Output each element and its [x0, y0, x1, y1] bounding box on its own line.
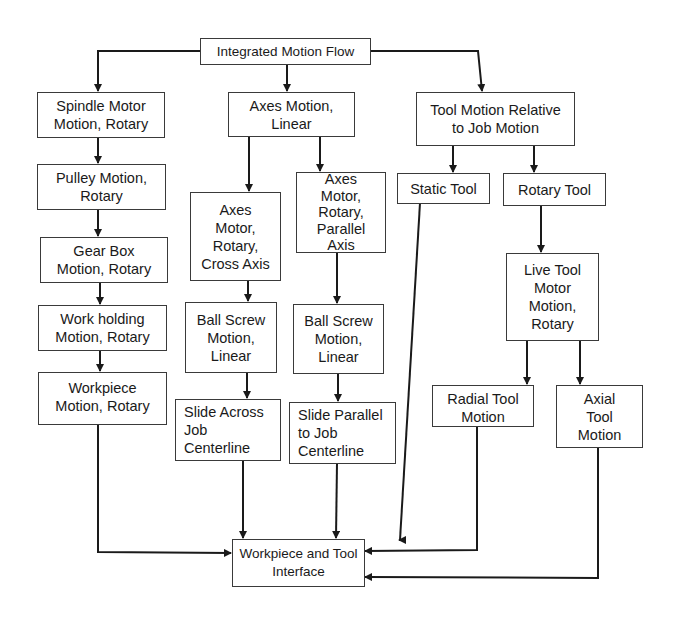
- node-axial-tool-motion: Axial Tool Motion: [556, 385, 643, 448]
- node-work-holding: Work holding Motion, Rotary: [38, 305, 167, 351]
- node-static-tool: Static Tool: [397, 173, 490, 204]
- node-ball-screw-parallel: Ball Screw Motion, Linear: [293, 304, 384, 374]
- node-slide-parallel: Slide Parallel to Job Centerline: [289, 402, 396, 464]
- node-pulley-motion: Pulley Motion, Rotary: [37, 164, 166, 210]
- node-tool-motion-relative: Tool Motion Relative to Job Motion: [416, 92, 575, 146]
- node-live-tool-motor: Live Tool Motor Motion, Rotary: [506, 253, 599, 341]
- node-gear-box: Gear Box Motion, Rotary: [40, 237, 168, 283]
- node-integrated-motion-flow: Integrated Motion Flow: [200, 38, 371, 65]
- line-static-to-interface: [400, 203, 420, 540]
- arrow-slide-parallel-to-interface: [336, 463, 337, 538]
- flow-diagram: Integrated Motion Flow Spindle Motor Mot…: [0, 0, 676, 622]
- node-axes-motor-parallel: Axes Motor, Rotary, Parallel Axis: [296, 172, 386, 253]
- node-spindle-motor: Spindle Motor Motion, Rotary: [37, 92, 165, 138]
- node-workpiece-tool-interface: Workpiece and Tool Interface: [232, 539, 365, 587]
- arrow-root-to-spindle: [98, 51, 200, 91]
- node-workpiece-motion: Workpiece Motion, Rotary: [38, 372, 167, 425]
- node-ball-screw-cross: Ball Screw Motion, Linear: [185, 302, 277, 373]
- node-slide-across: Slide Across Job Centerline: [175, 399, 281, 461]
- arrow-axial-to-interface: [365, 447, 598, 578]
- arrow-root-to-tool-relative: [370, 51, 482, 91]
- node-axes-motor-cross: Axes Motor, Rotary, Cross Axis: [190, 192, 281, 281]
- node-axes-motion-linear: Axes Motion, Linear: [228, 92, 355, 137]
- node-radial-tool-motion: Radial Tool Motion: [432, 385, 534, 427]
- node-rotary-tool: Rotary Tool: [503, 173, 606, 206]
